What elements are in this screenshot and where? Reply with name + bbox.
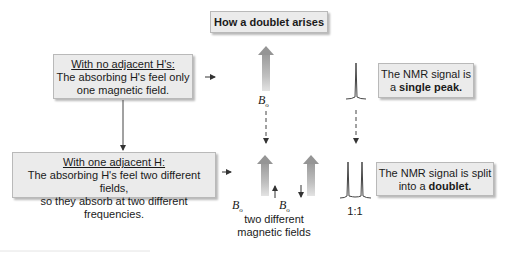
doublet-peaks-icon — [340, 162, 371, 198]
connector-overlay — [0, 0, 510, 253]
single-peak-icon — [346, 63, 366, 99]
